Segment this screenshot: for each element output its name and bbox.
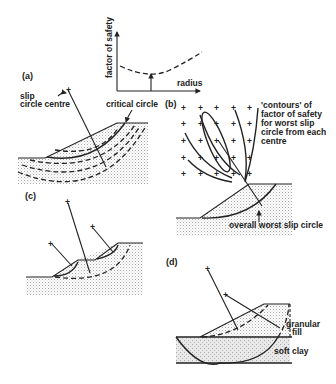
slip-centre-pointer bbox=[58, 93, 66, 96]
fos-radius-graph: factor of safety radius bbox=[104, 17, 203, 91]
contours-label-5: centre bbox=[261, 136, 287, 146]
centre-cross: + bbox=[66, 85, 71, 95]
centre-crosses: ++ bbox=[205, 264, 228, 300]
panel-a-label: (a) bbox=[22, 71, 33, 81]
contour-4 bbox=[235, 110, 246, 180]
granular-fill bbox=[200, 304, 290, 337]
svg-text:+: + bbox=[48, 239, 53, 249]
critical-circle-pointer bbox=[126, 110, 132, 122]
svg-text:+: + bbox=[214, 103, 219, 113]
svg-text:+: + bbox=[198, 136, 203, 146]
radius-line-1 bbox=[52, 244, 72, 266]
svg-text:+: + bbox=[231, 136, 236, 146]
svg-text:+: + bbox=[90, 222, 95, 232]
centre-crosses: +++ bbox=[48, 197, 95, 249]
y-axis-label: factor of safety bbox=[104, 17, 114, 78]
fos-curve bbox=[120, 52, 202, 74]
svg-text:+: + bbox=[223, 290, 228, 300]
svg-text:+: + bbox=[247, 136, 252, 146]
overall-worst-label: overall worst slip circle bbox=[229, 220, 323, 230]
svg-text:+: + bbox=[181, 103, 186, 113]
panel-b: (b) +++++ +++++ +++++ +++++ +++++ 'conto… bbox=[165, 99, 326, 236]
panel-c: (c) +++ bbox=[25, 191, 143, 295]
soft-clay-label: soft clay bbox=[274, 346, 309, 356]
critical-circle-label: critical circle bbox=[106, 99, 158, 109]
centre-grid: +++++ +++++ +++++ +++++ +++++ bbox=[181, 103, 252, 179]
soft-clay-layer bbox=[176, 337, 290, 363]
svg-text:+: + bbox=[181, 136, 186, 146]
svg-text:+: + bbox=[181, 119, 186, 129]
soil-mass bbox=[26, 243, 143, 295]
soil-mass bbox=[18, 123, 148, 184]
panel-c-label: (c) bbox=[25, 191, 36, 201]
slope-stability-figure: factor of safety radius (a) + slip circl… bbox=[0, 0, 336, 384]
granular-label-2: fill bbox=[292, 327, 302, 337]
panel-a: (a) + slip circle centre critical circle bbox=[18, 71, 158, 184]
x-axis-label: radius bbox=[177, 78, 203, 88]
svg-text:+: + bbox=[247, 103, 252, 113]
radius-line-3 bbox=[93, 228, 113, 252]
panel-d: (d) ++ granular fill soft clay bbox=[166, 257, 321, 364]
svg-text:+: + bbox=[181, 153, 186, 163]
svg-text:+: + bbox=[247, 119, 252, 129]
panel-b-label: (b) bbox=[165, 99, 177, 109]
diagram-canvas: factor of safety radius (a) + slip circl… bbox=[0, 0, 336, 384]
svg-text:+: + bbox=[65, 197, 70, 207]
slip-label-line2: circle centre bbox=[20, 99, 70, 109]
svg-text:+: + bbox=[205, 264, 210, 274]
svg-text:+: + bbox=[181, 169, 186, 179]
svg-text:+: + bbox=[198, 103, 203, 113]
panel-d-label: (d) bbox=[166, 257, 178, 267]
svg-text:+: + bbox=[231, 119, 236, 129]
